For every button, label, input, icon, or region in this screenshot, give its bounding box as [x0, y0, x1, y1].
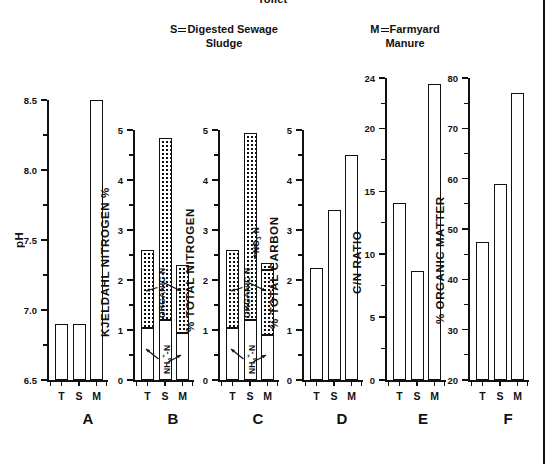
x-tick-F-M — [517, 380, 518, 386]
y-ticklabel-F-3: 50 — [447, 224, 458, 235]
y-ticklabel-F-6: 80 — [447, 73, 458, 84]
x-label-F-M: M — [513, 390, 522, 402]
y-tick-major-F-0 — [462, 379, 468, 380]
y-tick-minor-F-0 — [464, 354, 468, 355]
y-tick-minor-F-1 — [464, 304, 468, 305]
x-label-F-S: S — [496, 390, 503, 402]
y-tick-major-F-4 — [462, 178, 468, 179]
x-tick-F-S — [499, 380, 500, 386]
bar-F-M — [511, 93, 524, 380]
y-tick-major-F-5 — [462, 128, 468, 129]
y-tick-major-F-2 — [462, 279, 468, 280]
y-axis-F — [468, 78, 470, 381]
y-tick-minor-F-5 — [464, 103, 468, 104]
x-label-F-T: T — [479, 390, 485, 402]
y-tick-minor-F-4 — [464, 153, 468, 154]
x-tick-F-end — [527, 380, 528, 386]
y-ticklabel-F-5: 70 — [447, 123, 458, 134]
bar-F-S — [494, 184, 507, 380]
y-axis-label-F: % ORGANIC MATTER — [434, 170, 446, 350]
figure-root: Toilet SDigested Sewage Sludge MFarmyard… — [0, 0, 545, 464]
x-tick-F-T — [482, 380, 483, 386]
y-ticklabel-F-1: 30 — [447, 324, 458, 335]
y-tick-minor-F-2 — [464, 254, 468, 255]
y-tick-major-F-6 — [462, 77, 468, 78]
y-ticklabel-F-0: 20 — [447, 375, 458, 386]
y-tick-minor-F-3 — [464, 203, 468, 204]
panel-F: 20304050607080% ORGANIC MATTERTSMF — [0, 0, 545, 464]
bar-F-T — [476, 242, 489, 380]
y-ticklabel-F-4: 60 — [447, 173, 458, 184]
y-ticklabel-F-2: 40 — [447, 274, 458, 285]
y-tick-major-F-3 — [462, 228, 468, 229]
y-tick-major-F-1 — [462, 329, 468, 330]
panel-letter-F: F — [503, 410, 512, 427]
x-tick-F-start — [471, 380, 472, 386]
